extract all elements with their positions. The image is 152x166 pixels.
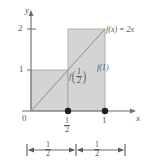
dimension-label-1: 1 2 <box>45 141 51 158</box>
fraction-one-half: 1 2 <box>45 141 51 158</box>
dim-arrow-1-left <box>28 147 34 152</box>
x-axis-label: x <box>136 114 140 123</box>
y-tick-label-2: 2 <box>18 24 23 33</box>
y-tick-label-1: 1 <box>19 65 24 74</box>
x-tick-label-half: 1 2 <box>64 116 70 134</box>
x-point-half <box>65 108 71 114</box>
fraction-one-half: 1 2 <box>94 141 100 158</box>
right-paren: ) <box>83 70 86 84</box>
dimension-label-2: 1 2 <box>94 141 100 158</box>
fraction-denominator: 2 <box>64 126 70 134</box>
y-axis-arrowhead <box>29 10 34 16</box>
dim-arrow-2-right <box>118 147 124 152</box>
riemann-sum-figure: y x 0 2 1 1 2 1 f(x) = 2x f ( 1 2 ) f(1)… <box>0 0 152 166</box>
dim-arrow-1-right <box>69 147 75 152</box>
fraction-denominator: 2 <box>45 150 51 158</box>
x-point-one <box>102 108 108 114</box>
f-of-half-label: f ( 1 2 ) <box>69 68 87 85</box>
f-of-one-label: f(1) <box>97 64 109 72</box>
function-label: f(x) = 2x <box>106 26 134 34</box>
origin-label: 0 <box>22 114 27 123</box>
dim-arrow-2-left <box>77 147 83 152</box>
fraction-denominator: 2 <box>94 150 100 158</box>
fraction-one-half-inner: 1 2 <box>76 68 82 85</box>
y-axis-label: y <box>25 6 29 15</box>
left-paren: ( <box>72 70 75 84</box>
x-tick-label-one: 1 <box>102 116 107 125</box>
fraction-one-half: 1 2 <box>64 117 70 134</box>
fraction-denominator: 2 <box>76 77 82 85</box>
